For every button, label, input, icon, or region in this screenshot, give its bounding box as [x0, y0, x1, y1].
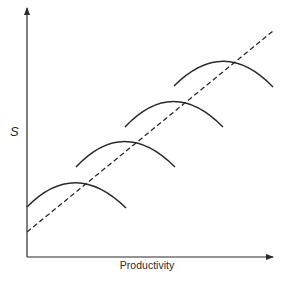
curve-3	[125, 102, 223, 128]
dashed-trend-line	[27, 31, 273, 232]
diagram-svg	[0, 0, 283, 281]
x-axis-label: Productivity	[0, 259, 283, 271]
y-axis-label: S	[10, 124, 19, 139]
curve-4	[174, 61, 273, 87]
curve-1	[27, 183, 126, 208]
curve-2	[76, 142, 175, 168]
diagram-canvas: S Productivity	[0, 0, 283, 281]
